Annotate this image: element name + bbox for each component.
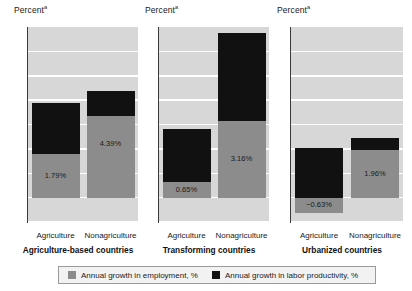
bar-segment-productivity	[218, 33, 266, 121]
y-axis-title-footnote: a	[175, 4, 178, 10]
gridline	[291, 221, 403, 222]
bar-segment-productivity	[163, 129, 211, 181]
y-axis-title-footnote: a	[307, 4, 310, 10]
panel-title: Agriculture-based countries	[16, 245, 140, 255]
y-axis-title-text: Percent	[14, 5, 44, 15]
gridline	[28, 75, 138, 77]
gridline	[291, 124, 403, 126]
bar-segment-productivity	[351, 138, 399, 150]
gridline	[159, 221, 269, 222]
legend-entry-productivity: Annual growth in labor productivity, %	[212, 271, 358, 280]
chart-legend: Annual growth in employment, % Annual gr…	[58, 266, 376, 284]
legend-label-productivity: Annual growth in labor productivity, %	[225, 271, 358, 280]
bar-value-label: 1.79%	[32, 172, 80, 180]
y-axis-title-text: Percent	[145, 5, 175, 15]
bar-segment-productivity	[32, 103, 80, 154]
plot-area: 76543210−1−0.63%1.96%	[291, 27, 403, 222]
gridline	[28, 51, 138, 53]
legend-label-employment: Annual growth in employment, %	[81, 271, 198, 280]
plot-area: 76543210−11.79%4.39%	[28, 27, 138, 222]
panel-title: Transforming countries	[147, 245, 271, 255]
chart-panel-agriculture-based: Percenta 76543210−11.79%4.39% Agricultur…	[0, 0, 150, 262]
legend-entry-employment: Annual growth in employment, %	[68, 271, 198, 280]
bar-segment-productivity	[295, 148, 343, 198]
chart-panel-transforming: Percenta 76543210−10.65%3.16% Agricultur…	[131, 0, 281, 262]
bar-value-label: 0.65%	[163, 186, 211, 194]
chart-panel-urbanized: Percenta 76543210−1−0.63%1.96% Agricultu…	[263, 0, 412, 262]
legend-swatch-productivity-icon	[212, 271, 220, 279]
y-axis-title: Percenta	[277, 5, 310, 15]
y-axis-title: Percenta	[14, 5, 47, 15]
gridline	[291, 75, 403, 77]
legend-swatch-employment-icon	[68, 271, 76, 279]
y-axis-title-footnote: a	[44, 4, 47, 10]
plot-area: 76543210−10.65%3.16%	[159, 27, 269, 222]
chart-figure: Percenta 76543210−11.79%4.39% Agricultur…	[0, 0, 412, 291]
gridline	[28, 221, 138, 222]
gridline	[291, 99, 403, 101]
bar-value-label: −0.63%	[295, 201, 343, 209]
y-axis-title: Percenta	[145, 5, 178, 15]
bar-value-label: 1.96%	[351, 170, 399, 178]
category-label-1: Nonagriculture	[330, 231, 412, 240]
bar-segment-productivity	[87, 91, 135, 117]
bar-value-label: 3.16%	[218, 155, 266, 163]
panel-title: Urbanized countries	[279, 245, 405, 255]
y-axis-title-text: Percent	[277, 5, 307, 15]
gridline	[291, 51, 403, 53]
bar-value-label: 4.39%	[87, 140, 135, 148]
